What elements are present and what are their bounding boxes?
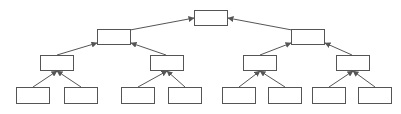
edge-arrow-n7-to-n3 (33, 71, 57, 87)
tree-node-level-0 (194, 10, 228, 26)
edge-arrow-n11-to-n5 (239, 71, 260, 87)
edge-arrow-n6-to-n2 (325, 43, 352, 55)
tree-diagram (0, 0, 401, 114)
tree-node-level-2 (150, 55, 184, 71)
tree-node-level-3 (121, 87, 155, 104)
tree-node-level-1 (97, 29, 131, 45)
edge-arrow-n13-to-n6 (329, 71, 353, 87)
edge-arrow-n14-to-n6 (353, 71, 375, 87)
tree-node-level-3 (312, 87, 346, 104)
tree-node-level-3 (168, 87, 202, 104)
edge-arrow-n4-to-n1 (131, 43, 166, 55)
tree-node-level-2 (40, 55, 74, 71)
edge-arrow-n2-to-n0 (228, 18, 292, 30)
tree-node-level-3 (16, 87, 50, 104)
tree-node-level-3 (268, 87, 302, 104)
edge-arrow-n1-to-n0 (130, 18, 194, 30)
tree-node-level-3 (358, 87, 392, 104)
edge-arrow-n5-to-n2 (260, 43, 291, 55)
tree-node-level-1 (291, 29, 325, 45)
edge-arrow-n9-to-n4 (138, 71, 167, 87)
edge-arrow-n3-to-n1 (57, 43, 97, 55)
edge-arrow-n12-to-n5 (260, 71, 285, 87)
tree-node-level-3 (64, 87, 98, 104)
tree-node-level-2 (243, 55, 277, 71)
edge-arrow-n8-to-n3 (57, 71, 81, 87)
tree-node-level-3 (222, 87, 256, 104)
tree-node-level-2 (336, 55, 370, 71)
edge-arrow-n10-to-n4 (167, 71, 185, 87)
